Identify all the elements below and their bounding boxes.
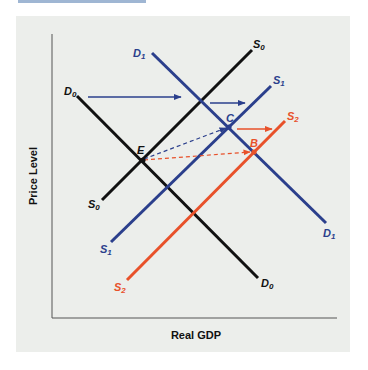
ad-as-diagram: Price Level Real GDP E C B D0 D0 D1 D1 S… xyxy=(0,0,368,370)
label-d0-left: D0 xyxy=(64,85,77,99)
point-e xyxy=(140,157,145,162)
x-axis-label: Real GDP xyxy=(171,329,221,341)
curve-s2 xyxy=(127,121,285,280)
label-s0-bottom: S0 xyxy=(88,198,100,212)
label-d0-right: D0 xyxy=(261,277,274,291)
label-s1-top: S1 xyxy=(273,74,285,88)
label-s1-bottom: S1 xyxy=(100,243,112,257)
label-b: B xyxy=(250,137,258,149)
point-c xyxy=(226,124,231,129)
point-b xyxy=(251,149,256,154)
y-axis-label: Price Level xyxy=(27,147,39,205)
label-s0-top: S0 xyxy=(253,38,265,52)
label-s2-bottom: S2 xyxy=(114,281,126,295)
label-s2-top: S2 xyxy=(287,110,299,124)
label-d1-right: D1 xyxy=(323,227,336,241)
label-c: C xyxy=(226,112,235,124)
label-e: E xyxy=(137,144,145,156)
label-d1-left: D1 xyxy=(133,47,146,61)
